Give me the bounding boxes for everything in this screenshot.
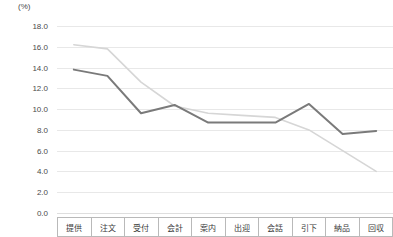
category-label-cell: 納品 (326, 218, 360, 236)
category-label-cell: 提供 (58, 218, 92, 236)
y-axis-tick-label: 0.0 (14, 209, 48, 218)
category-label-cell: 案内 (192, 218, 226, 236)
series-line-series-dark (74, 70, 376, 134)
series-layer (57, 0, 393, 237)
y-axis: 18.016.014.012.010.08.06.04.02.00.0 (14, 0, 48, 237)
y-axis-tick-label: 2.0 (14, 188, 48, 197)
category-label-cell: 注文 (92, 218, 126, 236)
y-axis-tick-label: 4.0 (14, 167, 48, 176)
category-label-cell: 引下 (293, 218, 327, 236)
y-axis-tick-label: 16.0 (14, 42, 48, 51)
y-axis-tick-label: 12.0 (14, 84, 48, 93)
line-chart: (%) 18.016.014.012.010.08.06.04.02.00.0 … (0, 0, 393, 237)
category-label-cell: 会計 (159, 218, 193, 236)
category-label-cell: 会話 (259, 218, 293, 236)
plot-area (57, 0, 393, 237)
y-axis-tick-label: 8.0 (14, 125, 48, 134)
y-axis-tick-label: 6.0 (14, 146, 48, 155)
series-line-series-light (74, 45, 376, 172)
category-axis-table: 提供注文受付会計案内出迎会話引下納品回収 (57, 217, 393, 237)
y-axis-tick-label: 14.0 (14, 63, 48, 72)
y-axis-tick-label: 18.0 (14, 22, 48, 31)
category-label-cell: 受付 (125, 218, 159, 236)
category-label-cell: 回収 (360, 218, 393, 236)
y-axis-tick-label: 10.0 (14, 105, 48, 114)
category-label-cell: 出迎 (226, 218, 260, 236)
